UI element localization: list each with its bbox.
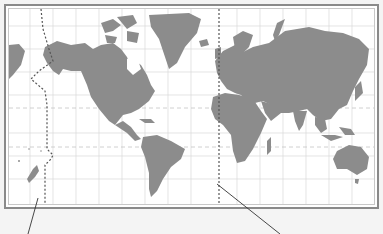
prime-meridian-leader	[217, 184, 280, 234]
callout-layer	[0, 0, 383, 234]
date-line-leader	[28, 198, 38, 234]
